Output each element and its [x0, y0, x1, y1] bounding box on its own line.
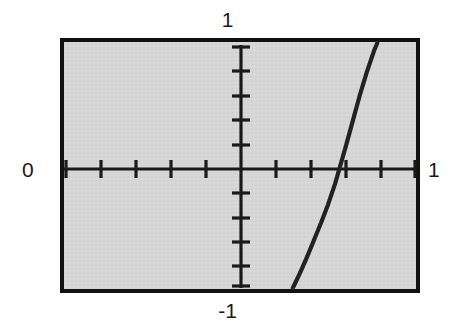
y-max-label: 1 [0, 9, 455, 30]
plot-figure: 1 -1 0 1 [0, 0, 455, 331]
x-min-label: 0 [22, 159, 34, 180]
y-min-label: -1 [0, 300, 455, 321]
plot-canvas [0, 0, 455, 331]
x-max-label: 1 [428, 159, 440, 180]
